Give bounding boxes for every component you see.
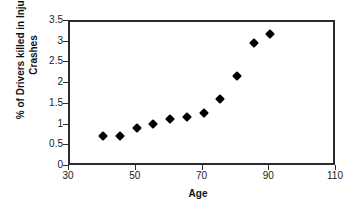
data-point — [165, 114, 175, 124]
data-point — [182, 112, 192, 122]
data-point — [132, 123, 142, 133]
x-tick-mark — [202, 165, 203, 170]
x-tick-label: 110 — [327, 170, 343, 181]
y-tick-label: 2.5 — [49, 56, 63, 66]
x-tick-label: 50 — [129, 170, 140, 181]
y-tick-label: 3.5 — [49, 15, 63, 25]
y-axis-title-line-2: Crashes — [28, 35, 39, 74]
x-tick-label: 90 — [263, 170, 274, 181]
x-axis-title-text: Age — [189, 188, 208, 199]
y-axis-title-line-1: % of Drivers killed in Injury — [15, 0, 26, 119]
x-axis-title: Age — [0, 188, 360, 199]
y-tick-label: 0.5 — [49, 139, 63, 149]
y-axis-title: % of Drivers killed in Injury Crashes — [14, 0, 40, 130]
data-point — [232, 71, 242, 81]
plot-area — [68, 20, 335, 165]
data-point — [98, 131, 108, 141]
x-tick-mark — [135, 165, 136, 170]
x-tick-mark — [335, 165, 336, 170]
data-point — [199, 108, 209, 118]
data-points-layer — [70, 22, 333, 163]
data-point — [249, 38, 259, 48]
data-point — [215, 94, 225, 104]
x-tick-mark — [268, 165, 269, 170]
x-tick-mark — [68, 165, 69, 170]
data-point — [115, 131, 125, 141]
y-tick-label: 1.5 — [49, 98, 63, 108]
scatter-chart: 00.511.522.533.5 30507090110 Age % of Dr… — [0, 0, 360, 217]
data-point — [148, 119, 158, 129]
x-tick-label: 30 — [62, 170, 73, 181]
data-point — [265, 29, 275, 39]
x-tick-label: 70 — [196, 170, 207, 181]
